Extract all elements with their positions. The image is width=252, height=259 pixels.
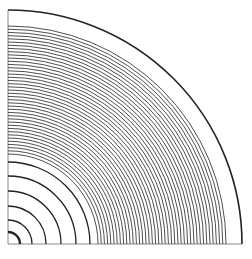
inner-arc (8, 206, 46, 244)
band-arc (8, 74, 178, 244)
band-arc (8, 93, 159, 244)
band-arc (8, 154, 98, 244)
inner-arc (8, 162, 90, 244)
inner-arcs (8, 162, 90, 244)
band-arc (8, 138, 114, 244)
band-arc (8, 122, 130, 244)
band-arc (8, 77, 175, 244)
band-arc (8, 96, 156, 244)
band-arc (8, 45, 207, 244)
inner-arc (8, 232, 20, 244)
band-arc (8, 52, 200, 244)
band-arc (8, 144, 108, 244)
band-arc (8, 84, 168, 244)
band-arc (8, 61, 191, 244)
band-arc (8, 109, 143, 244)
quarter-circle-diagram (0, 0, 252, 259)
dense-arc-band (8, 26, 226, 244)
